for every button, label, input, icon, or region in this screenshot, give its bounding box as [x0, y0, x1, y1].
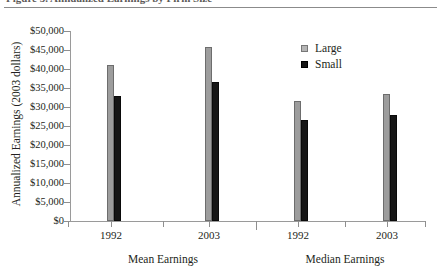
bar-small-1992-median — [301, 120, 308, 221]
plot-area — [70, 31, 425, 221]
bar-large-2003-mean — [205, 47, 212, 221]
y-axis-tick-label: $15,000 — [4, 159, 64, 169]
y-axis-tick — [64, 221, 70, 222]
x-axis-tick-label: 1992 — [81, 229, 141, 241]
bar-small-1992-mean — [114, 96, 121, 221]
x-axis-group-label: Mean Earnings — [83, 253, 243, 265]
x-axis-minor-tick — [425, 221, 426, 227]
y-axis-tick-label: $25,000 — [4, 121, 64, 131]
x-axis-tick — [387, 221, 388, 227]
x-axis-minor-tick — [68, 221, 69, 227]
legend-item-small[interactable]: Small — [301, 57, 342, 71]
x-axis-minor-tick — [163, 221, 164, 227]
x-axis-tick — [111, 221, 112, 227]
y-axis-tick-label: $30,000 — [4, 102, 64, 112]
y-axis-tick-label: $0 — [4, 216, 64, 226]
y-axis-tick-label: $45,000 — [4, 45, 64, 55]
x-axis-group-label: Median Earnings — [265, 253, 425, 265]
figure-caption-strip: Figure 5. Annualized Earnings by Firm Si… — [0, 0, 441, 7]
horizontal-rule — [4, 7, 437, 8]
x-axis-group-separator — [256, 221, 257, 230]
legend-label-small: Small — [315, 58, 342, 70]
bar-large-1992-mean — [107, 65, 114, 221]
y-axis-tick-label: $5,000 — [4, 197, 64, 207]
x-axis-line — [70, 221, 425, 222]
figure-caption: Figure 5. Annualized Earnings by Firm Si… — [6, 0, 212, 4]
y-axis-tick-label: $20,000 — [4, 140, 64, 150]
y-axis-tick-label: $35,000 — [4, 83, 64, 93]
legend-item-large[interactable]: Large — [301, 41, 342, 55]
bar-large-2003-median — [383, 94, 390, 221]
x-axis-tick-label: 1992 — [268, 229, 328, 241]
y-axis-tick-label: $40,000 — [4, 64, 64, 74]
legend-swatch-large-icon — [301, 45, 308, 52]
y-axis-tick-label: $50,000 — [4, 26, 64, 36]
bar-large-1992-median — [294, 101, 301, 221]
bar-small-2003-median — [390, 115, 397, 221]
x-axis-tick — [298, 221, 299, 227]
x-axis-tick-label: 2003 — [179, 229, 239, 241]
x-axis-minor-tick — [345, 221, 346, 227]
figure-bar-chart: Figure 5. Annualized Earnings by Firm Si… — [0, 0, 441, 276]
y-axis-tick-label: $10,000 — [4, 178, 64, 188]
x-axis-tick — [209, 221, 210, 227]
bar-small-2003-mean — [212, 82, 219, 221]
chart-legend: Large Small — [301, 41, 342, 73]
legend-label-large: Large — [315, 42, 342, 54]
x-axis-tick-label: 2003 — [357, 229, 417, 241]
legend-swatch-small-icon — [301, 61, 308, 68]
